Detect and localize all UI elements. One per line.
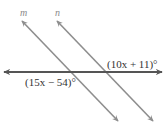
line-n-label: n: [55, 7, 60, 18]
parallel-lines-diagram: m n (10x + 11)° (15x − 54)°: [0, 0, 164, 130]
line-m: [22, 21, 118, 121]
angle-label-upper-right: (10x + 11)°: [107, 58, 158, 71]
angle-label-lower-left: (15x − 54)°: [25, 76, 76, 89]
line-m-label: m: [20, 7, 27, 18]
line-n: [57, 21, 153, 121]
